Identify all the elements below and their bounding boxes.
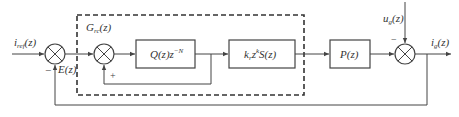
k-block-label: krzkS(z) <box>244 47 276 62</box>
sum2-plus-sign: + <box>110 70 116 81</box>
sum1-minus-sign: − <box>45 64 51 76</box>
disturbance-label: ug(z) <box>383 12 404 26</box>
controller-group-label: Grc(z) <box>86 21 111 35</box>
summing-junction-3 <box>395 44 415 64</box>
summing-junction-1 <box>45 44 65 64</box>
output-label: ig(z) <box>431 36 450 50</box>
block-diagram: Grc(z) iref(z) − E(z) + Q(z)z−N krzkS(z)… <box>0 0 459 117</box>
summing-junction-2 <box>94 44 114 64</box>
error-label: E(z) <box>57 63 77 76</box>
input-label: iref(z) <box>14 36 37 50</box>
plant-block-label: P(z) <box>339 48 359 61</box>
sum3-minus-sign: − <box>391 34 397 45</box>
